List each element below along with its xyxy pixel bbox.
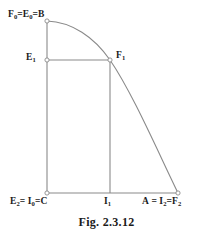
label-C-sub-2: 0 <box>32 200 35 207</box>
node-F1 <box>108 58 112 62</box>
label-C-base-3: C <box>40 196 47 206</box>
figure-container: F0=E0=B E1 F1 E2= I0=C I1 A = I2=F2 Fig.… <box>0 0 213 241</box>
label-C-eq-1: = <box>20 196 25 206</box>
point-label-A: A = I2=F2 <box>142 197 181 207</box>
point-label-B: F0=E0=B <box>8 10 44 20</box>
label-I1-sub: 1 <box>108 200 111 207</box>
concave-curve <box>47 21 178 193</box>
label-F1-sub: 1 <box>122 54 125 61</box>
label-A-sub-2: 2 <box>163 200 166 207</box>
point-label-E1: E1 <box>26 53 36 63</box>
label-A-base-1: A <box>142 196 149 206</box>
label-A-eq-1: = <box>151 196 156 206</box>
label-B-sub-1: 0 <box>14 13 17 20</box>
label-C-sub-1: 2 <box>16 200 19 207</box>
node-C <box>45 191 49 195</box>
node-B <box>45 19 49 23</box>
point-label-F1: F1 <box>116 51 125 61</box>
label-B-base-3: B <box>38 9 44 19</box>
point-label-C: E2= I0=C <box>10 197 47 207</box>
point-label-I1: I1 <box>104 197 111 207</box>
label-A-sub-3: 2 <box>178 200 181 207</box>
node-A <box>176 191 180 195</box>
label-C-base-2: I <box>28 196 32 206</box>
label-B-sub-2: 0 <box>29 13 32 20</box>
label-E1-sub: 1 <box>32 56 35 63</box>
node-E1 <box>45 58 49 62</box>
figure-caption: Fig. 2.3.12 <box>0 215 213 230</box>
